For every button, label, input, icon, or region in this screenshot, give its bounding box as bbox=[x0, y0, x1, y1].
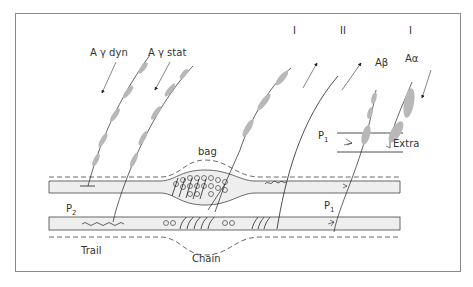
chain-fiber bbox=[49, 217, 400, 230]
label-p2: P2 bbox=[66, 203, 77, 217]
label-a-alpha: Aα bbox=[405, 53, 419, 64]
label-p1-mid: P1 bbox=[324, 200, 335, 214]
label-gamma-dyn: A γ dyn bbox=[90, 47, 128, 58]
gamma-dyn-axon bbox=[88, 55, 150, 186]
label-trail: Trail bbox=[80, 245, 101, 256]
label-group-I-right: I bbox=[409, 25, 412, 36]
label-extra: Extra bbox=[393, 138, 419, 149]
label-p1-top: P1 bbox=[318, 130, 329, 144]
spindle-diagram: A γ dyn A γ stat I II I Aβ Aα bag Chain … bbox=[0, 0, 473, 287]
label-a-beta: Aβ bbox=[375, 57, 388, 68]
a-beta-axon bbox=[334, 90, 378, 232]
label-group-II: II bbox=[340, 25, 346, 36]
label-group-I-left: I bbox=[293, 25, 296, 36]
label-bag: bag bbox=[198, 146, 217, 157]
label-chain: Chain bbox=[192, 253, 221, 264]
label-gamma-stat: A γ stat bbox=[148, 47, 186, 58]
